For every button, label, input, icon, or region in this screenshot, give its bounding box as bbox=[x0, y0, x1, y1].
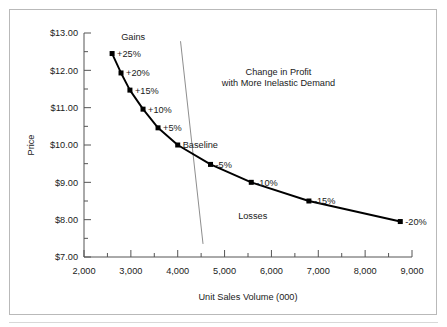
x-tick-label: 4,000 bbox=[166, 266, 189, 276]
data-point-label: -15% bbox=[314, 196, 335, 206]
data-point-marker bbox=[110, 51, 115, 56]
x-axis-title: Unit Sales Volume (000) bbox=[198, 292, 297, 302]
y-tick-label: $12.00 bbox=[50, 66, 78, 76]
annotation-gains: Gains bbox=[121, 32, 145, 42]
data-point-marker bbox=[175, 143, 180, 148]
data-point-label: +5% bbox=[163, 123, 182, 133]
chart-figure: $7.00$8.00$9.00$10.00$11.00$12.00$13.00 … bbox=[0, 0, 447, 327]
chart-title-line-1: Change in Profit bbox=[246, 67, 312, 77]
data-point-marker bbox=[398, 219, 403, 224]
x-tick-labels: 2,0003,0004,0005,0006,0007,0008,0009,000 bbox=[73, 266, 424, 276]
data-point-label: -5% bbox=[216, 160, 232, 170]
x-tick-label: 3,000 bbox=[119, 266, 142, 276]
chart-title-line-2: with More Inelastic Demand bbox=[221, 78, 335, 88]
data-point-marker bbox=[127, 88, 132, 93]
data-point-label: +10% bbox=[148, 105, 172, 115]
y-tick-label: $10.00 bbox=[50, 140, 78, 150]
y-axis-title: Price bbox=[26, 135, 36, 156]
y-tick-label: $11.00 bbox=[51, 103, 78, 113]
x-tick-label: 6,000 bbox=[260, 266, 283, 276]
annotation-losses: Losses bbox=[238, 211, 268, 221]
x-tick-label: 5,000 bbox=[213, 266, 236, 276]
data-point-label: +15% bbox=[135, 86, 159, 96]
data-point-marker bbox=[306, 199, 311, 204]
data-point-marker bbox=[156, 125, 161, 130]
data-point-marker bbox=[249, 180, 254, 185]
x-tick-label: 7,000 bbox=[307, 266, 330, 276]
chart-plot-area: $7.00$8.00$9.00$10.00$11.00$12.00$13.00 … bbox=[0, 0, 447, 327]
data-point-marker bbox=[119, 70, 124, 75]
data-point-label: +20% bbox=[126, 68, 150, 78]
x-tick-label: 8,000 bbox=[354, 266, 377, 276]
data-point-label: Baseline bbox=[183, 140, 218, 150]
x-tick-label: 9,000 bbox=[401, 266, 424, 276]
data-point-label: -10% bbox=[256, 178, 277, 188]
x-tick-label: 2,000 bbox=[73, 266, 96, 276]
data-point-marker bbox=[208, 162, 213, 167]
data-point-marker bbox=[141, 107, 146, 112]
y-tick-label: $7.00 bbox=[55, 252, 78, 262]
y-tick-label: $9.00 bbox=[55, 178, 78, 188]
data-point-label: +25% bbox=[117, 49, 141, 59]
data-point-label: -20% bbox=[405, 217, 426, 227]
y-tick-label: $8.00 bbox=[55, 215, 78, 225]
y-tick-labels: $7.00$8.00$9.00$10.00$11.00$12.00$13.00 bbox=[50, 28, 78, 262]
y-tick-label: $13.00 bbox=[50, 28, 78, 38]
